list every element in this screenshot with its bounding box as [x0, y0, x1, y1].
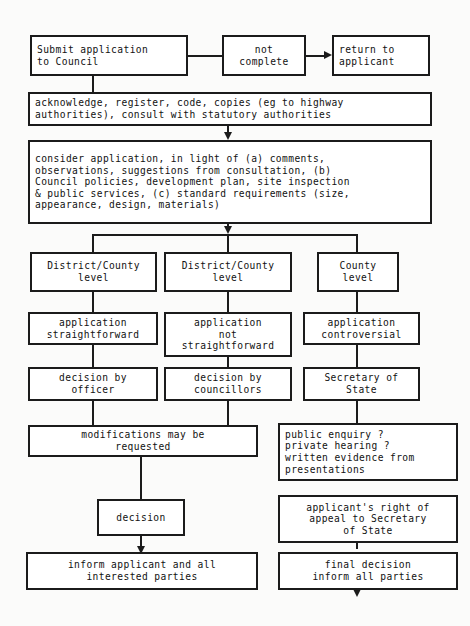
arrowhead-fork [224, 226, 232, 234]
node-modifications-may-be-requested[interactable]: modifications may be requested [28, 425, 258, 457]
edge-submit-to-not-complete [188, 55, 224, 57]
node-decision-by-officer[interactable]: decision by officer [28, 367, 158, 401]
node-district-county-level-1[interactable]: District/County level [30, 252, 157, 292]
node-application-straightforward[interactable]: application straightforward [28, 312, 158, 345]
node-submit-application[interactable]: Submit application to Council [30, 35, 188, 76]
arrowhead-consider [224, 132, 232, 140]
node-consider-application[interactable]: consider application, in light of (a) co… [28, 140, 432, 224]
node-district-county-level-2[interactable]: District/County level [164, 252, 292, 292]
node-not-complete[interactable]: not complete [222, 35, 306, 76]
edge-fork-branch-left [92, 234, 94, 252]
edge-app1-to-decision-officer [92, 345, 94, 367]
node-return-to-applicant[interactable]: return to applicant [332, 35, 430, 76]
edge-decision-officer-to-modifications [92, 401, 94, 425]
node-final-decision[interactable]: final decision inform all parties [278, 552, 458, 590]
edge-secretary-to-enquiry [356, 401, 358, 423]
node-acknowledge-register[interactable]: acknowledge, register, code, copies (eg … [28, 92, 432, 126]
node-application-not-straightforward[interactable]: application not straightforward [164, 312, 292, 357]
arrowhead-return-applicant [324, 51, 332, 59]
node-decision[interactable]: decision [97, 499, 185, 536]
node-right-of-appeal[interactable]: applicant's right of appeal to Secretary… [278, 495, 458, 543]
edge-level3-to-app3 [356, 292, 358, 312]
edge-decision-councillors-to-modifications [227, 401, 229, 425]
edge-fork-branch-mid [227, 234, 229, 252]
node-application-controversial[interactable]: application controversial [303, 312, 420, 345]
edge-fork-branch-right [356, 234, 358, 252]
edge-level1-to-app1 [92, 292, 94, 312]
node-decision-by-councillors[interactable]: decision by councillors [164, 367, 292, 401]
arrowhead-final-decision [353, 589, 361, 597]
node-county-level[interactable]: County level [317, 252, 399, 292]
node-inform-applicant[interactable]: inform applicant and all interested part… [26, 552, 258, 590]
flowchart-canvas: Submit application to Council not comple… [0, 0, 470, 626]
edge-app3-to-secretary [356, 345, 358, 367]
edge-level2-to-app2 [227, 292, 229, 312]
node-secretary-of-state[interactable]: Secretary of State [303, 367, 420, 401]
edge-modifications-to-decision [140, 457, 142, 499]
node-public-enquiry[interactable]: public enquiry ? private hearing ? writt… [278, 423, 458, 481]
edge-fork-bar [92, 234, 358, 236]
